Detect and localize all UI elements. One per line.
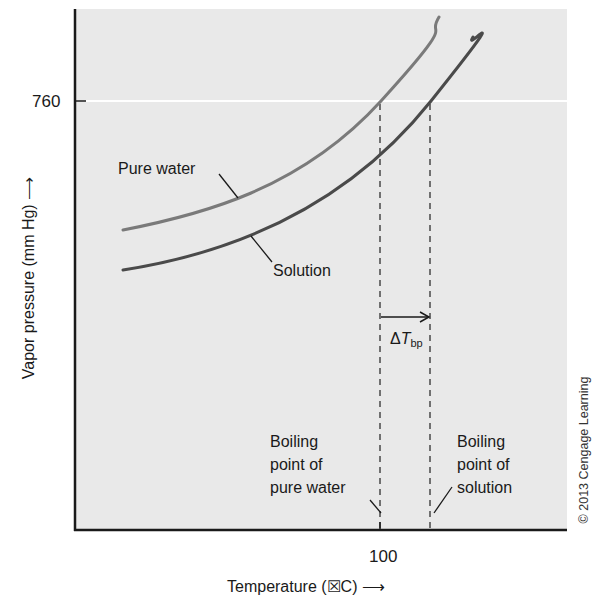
delta-var: T [401, 330, 411, 347]
boiling-point-elevation-figure: Vapor pressure (mm Hg) ⟶ Temperature (☒C… [0, 0, 608, 608]
delta-subscript: bp [410, 337, 422, 349]
copyright-notice: © 2013 Cengage Learning [577, 377, 591, 524]
x-axis-label: Temperature (☒C) ⟶ [227, 579, 385, 595]
delta-symbol: Δ [390, 330, 401, 347]
y-axis-label: Vapor pressure (mm Hg) ⟶ [19, 177, 38, 379]
plot-canvas [0, 0, 608, 608]
y-tick-label-760: 760 [32, 93, 60, 110]
solution-label: Solution [273, 263, 331, 279]
bp-pure-water-label: Boiling point of pure water [270, 430, 346, 499]
bp-solution-label: Boiling point of solution [457, 430, 512, 499]
pure-water-label: Pure water [118, 161, 195, 177]
delta-t-bp-label: ΔTbp [390, 330, 423, 349]
x-tick-label-100: 100 [369, 548, 397, 565]
